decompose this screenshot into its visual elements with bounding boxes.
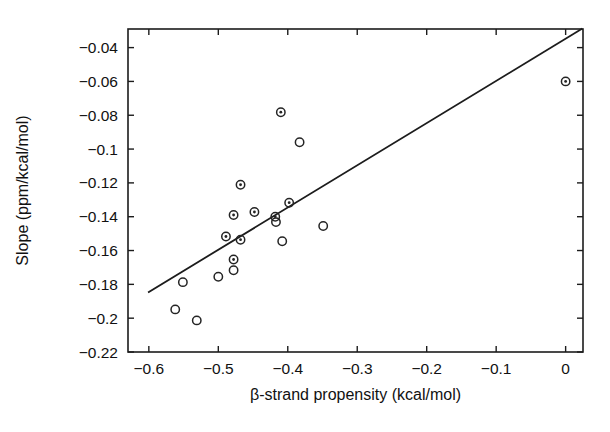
y-tick-label-9: −0.22 <box>79 344 118 361</box>
data-point-7 <box>272 218 280 226</box>
data-point-center-12 <box>232 258 235 261</box>
y-tick-label-8: −0.2 <box>87 310 118 327</box>
data-point-center-2 <box>239 183 242 186</box>
data-point-center-0 <box>279 111 282 114</box>
x-tick-label-3: −0.3 <box>342 360 373 377</box>
data-point-center-5 <box>288 201 291 204</box>
plot-canvas: −0.6−0.5−0.4−0.3−0.2−0.10−0.04−0.06−0.08… <box>0 0 610 432</box>
y-tick-label-0: −0.04 <box>79 39 119 56</box>
y-tick-label-5: −0.14 <box>79 208 119 225</box>
data-point-13 <box>229 266 237 274</box>
y-tick-label-2: −0.08 <box>79 107 118 124</box>
regression-line <box>149 29 582 292</box>
data-point-center-9 <box>225 235 228 238</box>
data-point-center-10 <box>239 238 242 241</box>
axes-frame <box>128 29 583 352</box>
x-tick-label-6: 0 <box>561 360 570 377</box>
data-point-15 <box>179 278 187 286</box>
x-tick-label-2: −0.4 <box>272 360 303 377</box>
x-axis-title: β-strand propensity (kcal/mol) <box>250 386 461 403</box>
y-axis-title: Slope (ppm/kcal/mol) <box>14 115 31 265</box>
data-point-16 <box>171 305 179 313</box>
x-tick-label-1: −0.5 <box>203 360 234 377</box>
data-point-14 <box>214 273 222 281</box>
series-0 <box>171 77 570 324</box>
scatter-plot-figure: −0.6−0.5−0.4−0.3−0.2−0.10−0.04−0.06−0.08… <box>0 0 610 432</box>
y-tick-label-1: −0.06 <box>79 73 118 90</box>
x-tick-label-4: −0.2 <box>411 360 442 377</box>
data-point-center-3 <box>232 214 235 217</box>
y-tick-label-6: −0.16 <box>79 242 118 259</box>
data-point-center-4 <box>253 211 256 214</box>
y-tick-label-4: −0.12 <box>79 174 118 191</box>
y-tick-label-7: −0.18 <box>79 276 118 293</box>
data-point-17 <box>193 316 201 324</box>
data-point-11 <box>278 237 286 245</box>
data-point-8 <box>319 222 327 230</box>
x-tick-label-5: −0.1 <box>481 360 512 377</box>
y-tick-label-3: −0.1 <box>87 141 118 158</box>
x-tick-label-0: −0.6 <box>134 360 165 377</box>
data-point-1 <box>295 138 303 146</box>
data-point-center-18 <box>564 80 567 83</box>
